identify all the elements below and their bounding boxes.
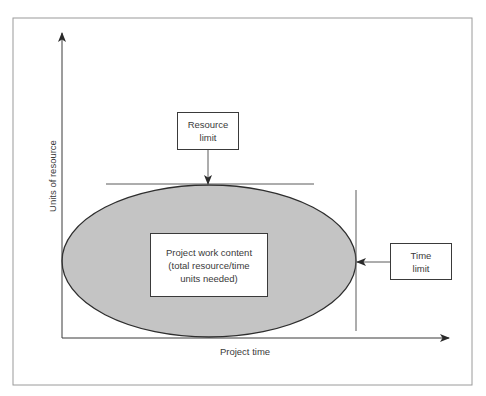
time-limit-line1: Time <box>411 249 432 262</box>
time-limit-line2: limit <box>411 262 432 275</box>
work-content-line1: Project work content <box>166 246 252 259</box>
work-content-line3: units needed) <box>166 272 252 285</box>
resource-limit-line2: limit <box>188 131 229 144</box>
time-limit-box: Time limit <box>390 243 452 280</box>
work-content-box: Project work content (total resource/tim… <box>150 233 268 297</box>
resource-limit-line1: Resource <box>188 118 229 131</box>
y-axis-label: Units of resource <box>47 140 58 212</box>
resource-limit-box: Resource limit <box>177 112 239 150</box>
x-axis-label: Project time <box>205 345 285 358</box>
work-content-line2: (total resource/time <box>166 259 252 272</box>
project-constraints-diagram: Resource limit Time limit Project work c… <box>0 0 486 396</box>
diagram-canvas <box>0 0 486 396</box>
